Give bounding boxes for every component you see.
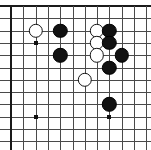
board-edge-left: [10, 6, 12, 150]
go-board-diagram: [0, 0, 151, 150]
grid-line-vertical: [48, 6, 49, 150]
black-stone[interactable]: [102, 60, 116, 74]
star-upper-left-icon: [34, 41, 38, 45]
white-stone[interactable]: [90, 48, 104, 62]
black-stone[interactable]: [53, 48, 67, 62]
white-stone[interactable]: [28, 23, 42, 37]
grid-line-vertical: [146, 6, 147, 150]
grid-line-vertical: [134, 6, 135, 150]
star-lower-left-icon: [34, 115, 38, 119]
goban-grid[interactable]: [0, 0, 151, 150]
star-lower-right-icon: [107, 115, 111, 119]
black-stone[interactable]: [102, 36, 116, 50]
black-stone[interactable]: [102, 97, 116, 111]
grid-line-vertical: [23, 6, 24, 150]
black-stone[interactable]: [53, 23, 67, 37]
white-stone[interactable]: [78, 73, 92, 87]
black-stone[interactable]: [114, 48, 128, 62]
grid-line-vertical: [73, 6, 74, 150]
grid-line-vertical: [122, 6, 123, 150]
